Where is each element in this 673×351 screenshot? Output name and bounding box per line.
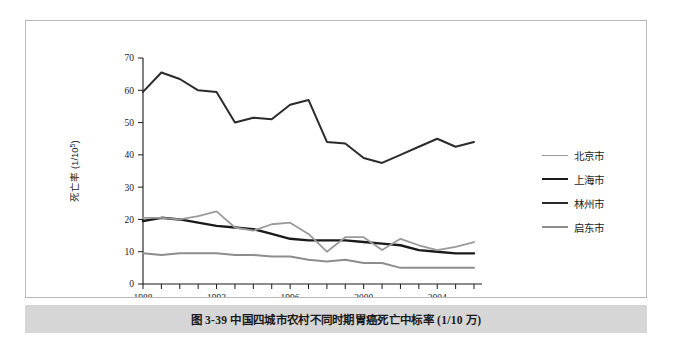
legend-label: 上海市	[574, 172, 604, 187]
figure-frame: 01020304050607019881992199620002004年份死亡率…	[25, 20, 647, 298]
y-axis-tick-label: 40	[125, 150, 135, 160]
y-axis-tick-label: 50	[125, 118, 135, 128]
legend-item-北京市[interactable]: 北京市	[542, 143, 652, 167]
y-axis-tick-label: 10	[125, 247, 135, 257]
y-axis-title-base: 死亡率 (1/10	[69, 147, 80, 201]
figure-caption-text: 图 3-39 中国四城市农村不同时期胃癌死亡中标率 (1/10 万)	[191, 311, 482, 327]
figure-caption-bar: 图 3-39 中国四城市农村不同时期胃癌死亡中标率 (1/10 万)	[25, 305, 647, 333]
y-axis-title-text: 死亡率 (1/105)	[69, 140, 81, 201]
y-axis-title-tail: )	[69, 140, 80, 143]
legend-label: 启东市	[574, 220, 604, 235]
y-axis-tick-label: 20	[125, 215, 135, 225]
y-axis-tick-label: 70	[125, 53, 135, 63]
legend-label: 北京市	[574, 148, 604, 163]
legend-label: 林州市	[574, 196, 604, 211]
legend-swatch	[542, 155, 568, 156]
legend-swatch	[542, 178, 568, 180]
series-line-北京市	[143, 211, 474, 251]
x-axis-tick-label: 1992	[207, 293, 226, 298]
x-axis-tick-label: 1988	[134, 293, 153, 298]
legend-item-林州市[interactable]: 林州市	[542, 191, 652, 215]
y-axis-tick-label: 60	[125, 86, 135, 96]
legend-item-上海市[interactable]: 上海市	[542, 167, 652, 191]
chart-legend: 北京市上海市林州市启东市	[542, 143, 652, 239]
series-line-林州市	[143, 73, 474, 163]
y-axis-title: 死亡率 (1/105)	[69, 140, 81, 201]
series-line-启东市	[143, 253, 474, 268]
legend-swatch	[542, 202, 568, 204]
legend-item-启东市[interactable]: 启东市	[542, 215, 652, 239]
x-axis-tick-label: 1996	[281, 293, 300, 298]
x-axis-tick-label: 2004	[428, 293, 447, 298]
series-line-上海市	[143, 218, 474, 254]
y-axis-tick-label: 30	[125, 183, 135, 193]
legend-swatch	[542, 226, 568, 228]
y-axis-tick-label: 0	[129, 279, 134, 289]
x-axis-tick-label: 2000	[354, 293, 373, 298]
